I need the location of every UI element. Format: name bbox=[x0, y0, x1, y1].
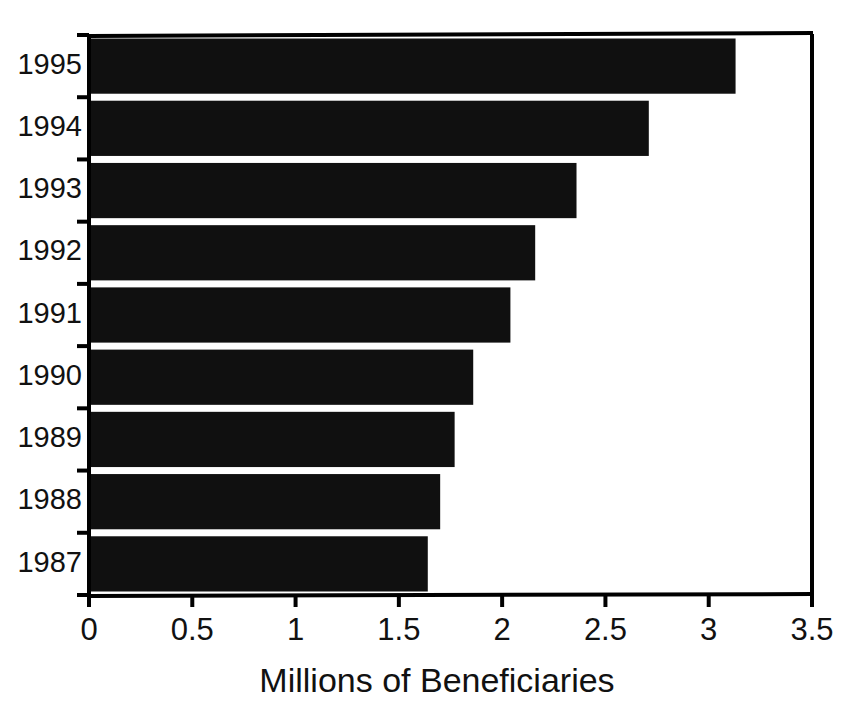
bar bbox=[89, 39, 736, 94]
bar bbox=[89, 287, 510, 342]
y-axis-label: 1995 bbox=[17, 48, 82, 80]
x-axis-label: 0.5 bbox=[171, 612, 214, 647]
bar bbox=[89, 101, 649, 156]
y-axis-label: 1990 bbox=[17, 359, 82, 391]
y-axis-label: 1989 bbox=[17, 421, 82, 453]
bar bbox=[89, 536, 428, 591]
x-axis-label: 0 bbox=[80, 612, 97, 647]
y-axis-labels: 199519941993199219911990198919881987 bbox=[17, 48, 82, 578]
y-axis-label: 1992 bbox=[17, 234, 82, 266]
bar bbox=[89, 474, 440, 529]
x-axis-label: 3 bbox=[700, 612, 717, 647]
x-axis-line bbox=[88, 594, 813, 596]
bar bbox=[89, 163, 577, 218]
bar-chart: 199519941993199219911990198919881987 00.… bbox=[0, 0, 855, 716]
bar bbox=[89, 412, 455, 467]
y-axis-label: 1993 bbox=[17, 172, 82, 204]
y-axis-label: 1991 bbox=[17, 297, 82, 329]
x-axis-label: 2.5 bbox=[584, 612, 627, 647]
x-axis-labels: 00.511.522.533.5 bbox=[80, 612, 833, 647]
x-axis-label: 2 bbox=[494, 612, 511, 647]
chart-canvas: 199519941993199219911990198919881987 00.… bbox=[0, 0, 855, 716]
y-axis-label: 1988 bbox=[17, 483, 82, 515]
x-axis-title: Millions of Beneficiaries bbox=[259, 661, 614, 699]
x-axis-label: 1 bbox=[287, 612, 304, 647]
x-axis-label: 3.5 bbox=[790, 612, 833, 647]
bar bbox=[89, 350, 473, 405]
x-axis-label: 1.5 bbox=[377, 612, 420, 647]
y-axis-label: 1994 bbox=[17, 110, 82, 142]
y-axis-label: 1987 bbox=[17, 546, 82, 578]
bar bbox=[89, 225, 535, 280]
